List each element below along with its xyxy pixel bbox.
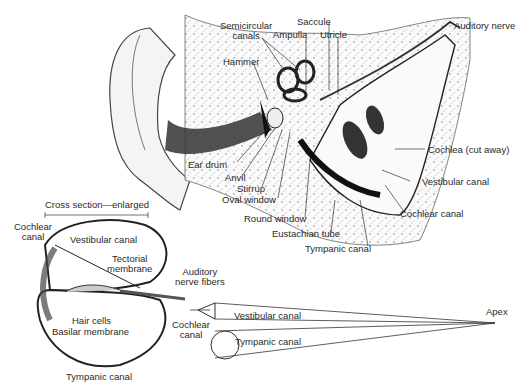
label-stirrup: Stirrup xyxy=(237,184,265,194)
label-round-window: Round window xyxy=(244,214,306,224)
label-ear-drum: Ear drum xyxy=(188,160,227,170)
label-line-2: canal xyxy=(172,330,210,340)
cs-label-tectorial-membrane: Tectorial membrane xyxy=(107,254,152,274)
label-saccule: Saccule xyxy=(297,17,331,27)
uc-label-vestibular-canal: Vestibular canal xyxy=(234,311,301,321)
label-tympanic-canal: Tympanic canal xyxy=(305,244,371,254)
outer-ear xyxy=(110,28,190,210)
label-oval-window: Oval window xyxy=(222,195,276,205)
label-vestibular-canal: Vestibular canal xyxy=(422,177,489,187)
cs-label-basilar-membrane: Basilar membrane xyxy=(52,327,129,337)
label-ampulla: Ampulla xyxy=(273,30,307,40)
label-anvil: Anvil xyxy=(225,173,246,183)
label-utricle: Utricle xyxy=(320,30,347,40)
cs-label-cochlear-canal: Cochlear canal xyxy=(14,222,52,242)
label-line-2: membrane xyxy=(107,264,152,274)
cross-section-title: Cross section—enlarged xyxy=(45,200,149,210)
uc-label-apex: Apex xyxy=(486,307,508,317)
cs-label-auditory-nerve-fibers: Auditory nerve fibers xyxy=(175,267,225,287)
cs-label-vestibular-canal: Vestibular canal xyxy=(70,235,137,245)
uc-label-tympanic-canal: Tympanic canal xyxy=(235,337,301,347)
label-line-2: canals xyxy=(220,31,272,41)
label-auditory-nerve: Auditory nerve xyxy=(454,21,515,31)
label-cochlea-cut-away: Cochlea (cut away) xyxy=(428,145,509,155)
label-cochlear-canal: Cochlear canal xyxy=(400,209,463,219)
label-hammer: Hammer xyxy=(223,57,259,67)
label-eustachian-tube: Eustachian tube xyxy=(272,229,340,239)
cs-label-hair-cells: Hair cells xyxy=(72,316,111,326)
label-line-2: canal xyxy=(14,232,52,242)
uc-label-cochlear-canal: Cochlear canal xyxy=(172,320,210,340)
cs-label-tympanic-canal: Tympanic canal xyxy=(66,372,132,382)
label-semicircular-canals: Semicircular canals xyxy=(220,21,272,41)
label-line-2: nerve fibers xyxy=(175,277,225,287)
